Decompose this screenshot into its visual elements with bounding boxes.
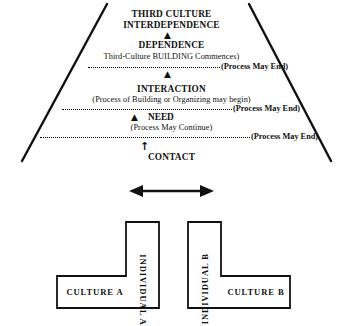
exit-label-2: (Process May End) [233, 105, 300, 113]
stage-interaction-heading: INTERACTION [0, 85, 343, 94]
up-arrow-icon-to-contact: ↑ [140, 141, 149, 152]
exit-divider-1 [88, 67, 220, 69]
exit-label-3: (Process May End) [251, 133, 318, 141]
up-arrow-icon-to-interdependence: ▲ [164, 31, 171, 40]
up-arrow-icon-to-need: ▲ [131, 113, 138, 122]
exit-label-1: (Process May End) [221, 63, 288, 71]
stage-dependence-note: Third-Culture BUILDING Commences) [0, 53, 343, 61]
up-arrow-icon-to-dependence: ▲ [164, 70, 171, 79]
stage-contact-heading: CONTACT [0, 153, 343, 162]
exit-divider-3 [40, 137, 250, 139]
culture-a-label: CULTURE A [64, 288, 126, 297]
culture-b-label: CULTURE B [225, 288, 287, 297]
stage-dependence-heading: DEPENDENCE [0, 41, 343, 50]
double-headed-arrow-icon [129, 185, 214, 197]
pyramid-stages: THIRD CULTURE INTERDEPENDENCE ▲ DEPENDEN… [0, 0, 343, 175]
stage-interdependence-line1: THIRD CULTURE [0, 10, 343, 19]
cultures-group [0, 175, 343, 322]
stage-interdependence-line2: INTERDEPENDENCE [0, 21, 343, 30]
individual-a-label: INDIVIDUAL A [139, 254, 148, 324]
individual-b-label: INDIVIDUAL B [201, 254, 210, 324]
exit-divider-2 [62, 109, 232, 111]
stage-need-heading: NEED [148, 113, 174, 122]
